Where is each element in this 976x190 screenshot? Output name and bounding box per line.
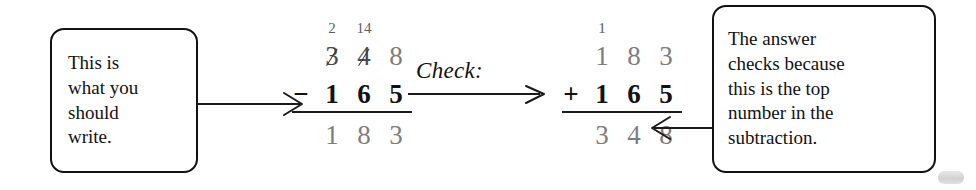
addition-bottom-addend-row: + 1 6 5 xyxy=(556,70,682,108)
subtrahend-digit-hundreds: 1 xyxy=(325,81,339,108)
addition-top-addend-row: 1 8 3 xyxy=(556,36,682,70)
addend-bottom-digit-hundreds: 1 xyxy=(595,81,609,108)
addend-top-digit-tens: 8 xyxy=(627,43,641,70)
addend-top-digit-hundreds: 1 xyxy=(595,43,609,70)
subtraction-problem: 2 14 3 4 8 − 1 6 5 1 8 3 xyxy=(286,14,412,149)
subtrahend-digit-tens: 6 xyxy=(357,81,371,108)
difference-digit-hundreds: 1 xyxy=(325,122,339,149)
addend-bottom-digit-tens: 6 xyxy=(627,81,641,108)
minus-sign: − xyxy=(293,81,308,108)
check-arrow-right-icon xyxy=(408,86,554,112)
callout-right-text: The answer checks because this is the to… xyxy=(714,27,853,150)
callout-box-right: The answer checks because this is the to… xyxy=(712,5,936,173)
minuend-digit-hundreds: 3 xyxy=(325,43,339,70)
minuend-digit-tens: 4 xyxy=(357,43,371,70)
check-label: Check: xyxy=(416,58,483,84)
addend-bottom-digit-ones: 5 xyxy=(659,81,673,108)
carry-mark-hundreds: 1 xyxy=(598,21,606,36)
plus-sign: + xyxy=(563,81,578,108)
scan-artifact xyxy=(938,171,964,184)
math-figure: This is what you should write. 2 14 3 4 … xyxy=(0,0,976,190)
borrow-mark-hundreds: 2 xyxy=(328,21,336,36)
difference-digit-ones: 3 xyxy=(389,122,403,149)
addition-carry-row: 1 xyxy=(556,14,682,36)
subtraction-minuend-row: 3 4 8 xyxy=(286,36,412,70)
minuend-digit-ones: 8 xyxy=(389,43,403,70)
addend-top-digit-ones: 3 xyxy=(659,43,673,70)
subtrahend-digit-ones: 5 xyxy=(389,81,403,108)
subtraction-difference-row: 1 8 3 xyxy=(286,113,412,149)
sum-digit-hundreds: 3 xyxy=(595,122,609,149)
subtraction-borrow-row: 2 14 xyxy=(286,14,412,36)
sum-digit-tens: 4 xyxy=(627,122,641,149)
arrow-left-icon xyxy=(648,112,714,144)
difference-digit-tens: 8 xyxy=(357,122,371,149)
subtraction-subtrahend-row: − 1 6 5 xyxy=(286,70,412,108)
callout-box-left: This is what you should write. xyxy=(50,28,198,173)
callout-left-text: This is what you should write. xyxy=(52,51,138,150)
borrow-mark-tens: 14 xyxy=(357,21,372,36)
